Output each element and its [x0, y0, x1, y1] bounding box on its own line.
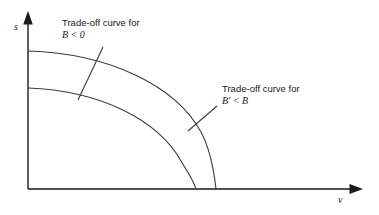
tradeoff-curve-inner — [28, 88, 196, 189]
callout-outer-line2: B < 0 — [62, 29, 85, 40]
y-axis-arrowhead-icon — [23, 11, 33, 25]
x-axis-arrowhead-icon — [350, 184, 364, 194]
tradeoff-curve-figure: s v Trade-off curve for B < 0 Trade-off … — [0, 0, 379, 215]
tradeoff-curve-outer — [28, 51, 216, 189]
y-axis-label: s — [14, 21, 18, 32]
x-axis-label: v — [338, 194, 343, 205]
figure-canvas: s v Trade-off curve for B < 0 Trade-off … — [0, 0, 379, 215]
callout-outer-line1: Trade-off curve for — [62, 17, 140, 28]
callout-inner-line1: Trade-off curve for — [222, 83, 300, 94]
callout-leader-line-outer — [78, 47, 103, 100]
callout-inner-line2: B' < B — [222, 95, 248, 106]
